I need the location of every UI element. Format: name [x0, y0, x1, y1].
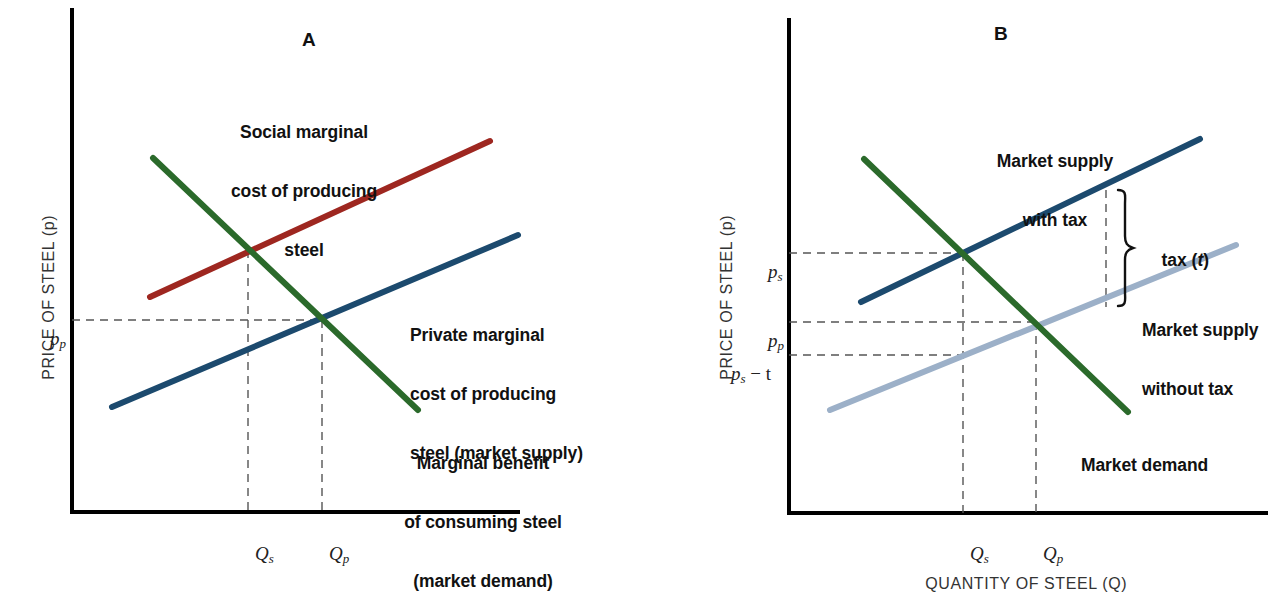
panel-b-ytick-ps: ps — [749, 240, 783, 306]
panel-a-xtick-qs: Qs — [236, 522, 274, 588]
panel-b-letter: B — [994, 23, 1008, 44]
panel-a-label-social-marginal-cost: Social marginal cost of producing steel — [194, 84, 414, 300]
panel-a-ytick-pp: pp — [31, 307, 66, 373]
panel-b-label-supply-without-tax: Market supply without tax — [1142, 282, 1284, 439]
panel-b-label-market-demand: Market demand — [1081, 417, 1281, 515]
panel-a-xtick-qp: Qp — [310, 522, 349, 588]
panel-b-xtick-qp: Qp — [1024, 522, 1063, 588]
panel-a-label-marginal-benefit: Marginal benefit of consuming steel (mar… — [358, 415, 608, 596]
panel-b-label-supply-with-tax: Market supply with tax — [960, 113, 1150, 270]
panel-b-xtick-qs: Qs — [951, 522, 989, 588]
panel-b-x-axis-title: QUANTITY OF STEEL (Q) — [905, 557, 1127, 596]
panel-b-ytick-ps-minus-t: ps − t — [712, 342, 771, 408]
panel-a-letter: A — [302, 29, 316, 50]
panel-b-tax-annotation-label: tax (t) — [1142, 231, 1209, 290]
